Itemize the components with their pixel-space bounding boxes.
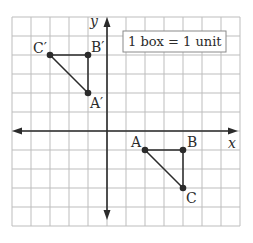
y-axis-arrow-down	[104, 210, 111, 220]
scale-note: 1 box = 1 unit	[123, 31, 226, 52]
vertex-label: C′	[33, 40, 47, 56]
x-axis-label: x	[228, 135, 236, 151]
scale-note-text: 1 box = 1 unit	[128, 34, 222, 49]
coordinate-grid: x y 1 box = 1 unit ABCA′B′C′	[0, 0, 253, 243]
vertex-point	[142, 147, 149, 154]
vertex-label: A	[130, 134, 142, 150]
y-axis-arrow-up	[104, 17, 111, 27]
x-axis-arrow-right	[228, 128, 238, 135]
vertex-label: B′	[91, 39, 104, 55]
vertex-point	[47, 52, 54, 59]
vertex-label: B	[187, 134, 197, 150]
vertex-label: A′	[89, 95, 103, 111]
vertex-label: C	[186, 190, 197, 206]
triangles: ABCA′B′C′	[33, 39, 197, 206]
y-axis-label: y	[89, 13, 99, 29]
vertex-point	[180, 147, 187, 154]
x-axis-arrow-left	[12, 128, 22, 135]
